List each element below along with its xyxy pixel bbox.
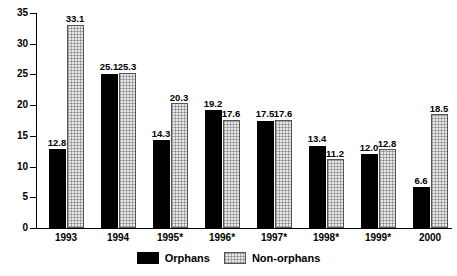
bar-group: 6.618.5	[413, 13, 448, 228]
y-axis-tick-label: 15	[2, 131, 28, 141]
y-axis: 35302520151050	[0, 0, 36, 276]
x-axis-label: 1993	[36, 233, 96, 243]
bar-group: 25.125.3	[101, 13, 136, 228]
y-axis-tick-label: 25	[2, 69, 28, 79]
bar-group: 13.411.2	[309, 13, 344, 228]
bar-nonorphans[interactable]: 33.1	[67, 25, 84, 228]
y-axis-tick-label: 5	[2, 192, 28, 202]
x-axis-label: 2000	[400, 233, 457, 243]
bar-orphans[interactable]: 12.8	[49, 149, 66, 228]
x-axis-label: 1995*	[140, 233, 200, 243]
x-axis-label: 1994	[88, 233, 148, 243]
chart-legend: OrphansNon-orphans	[0, 252, 457, 264]
bar-value-label: 17.6	[274, 109, 293, 119]
y-axis-tick-label: 35	[2, 8, 28, 18]
bar-orphans[interactable]: 13.4	[309, 146, 326, 228]
bar-value-label: 17.6	[222, 109, 241, 119]
legend-item[interactable]: Orphans	[137, 252, 210, 264]
bar-value-label: 12.8	[378, 139, 397, 149]
bar-nonorphans[interactable]: 17.6	[223, 120, 240, 228]
bar-value-label: 19.2	[204, 99, 223, 109]
bar-orphans[interactable]: 12.0	[361, 154, 378, 228]
bar-orphans[interactable]: 19.2	[205, 110, 222, 228]
legend-label: Non-orphans	[252, 253, 320, 264]
bar-nonorphans[interactable]: 25.3	[119, 73, 136, 228]
bar-group: 14.320.3	[153, 13, 188, 228]
bar-nonorphans[interactable]: 12.8	[379, 149, 396, 228]
plot-area: 12.833.125.125.314.320.319.217.617.517.6…	[36, 13, 452, 228]
bar-group: 17.517.6	[257, 13, 292, 228]
bar-value-label: 12.8	[48, 138, 67, 148]
y-axis-tick-label: 20	[2, 100, 28, 110]
bar-orphans[interactable]: 6.6	[413, 187, 430, 228]
bar-nonorphans[interactable]: 17.6	[275, 120, 292, 228]
light-hatched-swatch	[224, 252, 246, 264]
bar-orphans[interactable]: 17.5	[257, 121, 274, 229]
legend-label: Orphans	[165, 253, 210, 264]
bar-value-label: 13.4	[308, 134, 327, 144]
y-axis-tick-label: 0	[2, 223, 28, 233]
bar-nonorphans[interactable]: 11.2	[327, 159, 344, 228]
bar-value-label: 14.3	[152, 129, 171, 139]
bar-orphans[interactable]: 14.3	[153, 140, 170, 228]
bar-group: 12.012.8	[361, 13, 396, 228]
y-axis-tick	[30, 228, 37, 229]
bar-group: 12.833.1	[49, 13, 84, 228]
y-axis-tick-label: 30	[2, 39, 28, 49]
chart-title	[0, 0, 457, 2]
legend-item[interactable]: Non-orphans	[224, 252, 320, 264]
bar-value-label: 6.6	[414, 176, 427, 186]
x-axis-label: 1997*	[244, 233, 304, 243]
black-solid-swatch	[137, 252, 159, 264]
bar-value-label: 11.2	[326, 149, 344, 159]
bar-value-label: 17.5	[256, 109, 275, 119]
bar-value-label: 25.1	[100, 62, 119, 72]
x-axis-label: 1999*	[348, 233, 408, 243]
bar-group: 19.217.6	[205, 13, 240, 228]
bar-chart-figure: 35302520151050 12.833.125.125.314.320.31…	[0, 0, 457, 276]
bar-orphans[interactable]: 25.1	[101, 74, 118, 228]
x-axis-line	[36, 228, 452, 229]
bar-value-label: 12.0	[360, 143, 379, 153]
bar-nonorphans[interactable]: 20.3	[171, 103, 188, 228]
x-axis-label: 1996*	[192, 233, 252, 243]
bar-value-label: 18.5	[430, 104, 449, 114]
y-axis-tick-label: 10	[2, 162, 28, 172]
x-axis-label: 1998*	[296, 233, 356, 243]
bar-value-label: 20.3	[170, 93, 189, 103]
bar-value-label: 33.1	[66, 14, 85, 24]
bar-value-label: 25.3	[118, 62, 137, 72]
bar-nonorphans[interactable]: 18.5	[431, 114, 448, 228]
